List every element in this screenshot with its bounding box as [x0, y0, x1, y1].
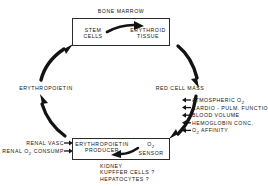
erythroid-tissue-label: ERYTHROIDTISSUE: [128, 27, 168, 40]
organ-caption: KIDNEYKUPFFER CELLS ?HEPATOCYTES ?: [100, 163, 180, 182]
factor-atmospheric-o2: ATMOSPHERIC O2: [192, 97, 266, 105]
sensor-line-2: SENSOR: [138, 150, 163, 156]
producer-line-2: PRODUCER: [85, 147, 119, 153]
renal-o2-label-tail: CONSUMP: [32, 148, 64, 154]
factor-blood-volume: BLOOD VOLUME: [192, 112, 266, 120]
stem-cells-line-2: CELLS: [83, 33, 102, 39]
stem-cells-label: STEMCELLS: [76, 27, 110, 40]
renal-o2-label-head: RENAL O: [2, 148, 28, 154]
erythroid-tissue-line-1: ERYTHROID: [130, 27, 165, 33]
red-cell-mass-node-label: RED CELL MASS: [146, 85, 214, 91]
organ-caption-line-1: KIDNEY: [100, 163, 123, 169]
epo-to-bone-marrow-arrow: [41, 44, 73, 80]
renal-vasc-label: RENAL VASC: [8, 140, 64, 146]
producer-line-1: ERYTHROPOIETIN: [75, 141, 129, 147]
bone-marrow-caption: BONE MARROW: [72, 8, 170, 14]
sensor-subscript: 2: [152, 144, 155, 149]
o2-sensor-label: O2SENSOR: [134, 141, 168, 157]
stem-cells-line-1: STEM: [85, 27, 102, 33]
erythroid-tissue-line-2: TISSUE: [137, 33, 159, 39]
factor-tail: AFFINITY: [199, 127, 228, 133]
bone-marrow-to-red-cell-mass-arrow: [178, 46, 199, 88]
erythropoietin-producer-label: ERYTHROPOIETINPRODUCER: [74, 141, 130, 154]
factor-label: BLOOD VOLUME: [192, 112, 240, 118]
factor-cardio-pulm-function: CARDIO - PULM. FUNCTION: [192, 105, 266, 113]
factor-label: CARDIO - PULM. FUNCTION: [192, 105, 268, 111]
factor-hemoglobin-conc: HEMOGLOBIN CONC.: [192, 120, 266, 128]
oxygen-delivery-factors-list: ATMOSPHERIC O2 CARDIO - PULM. FUNCTION B…: [192, 97, 266, 135]
renal-o2-consump-label: RENAL O2 CONSUMP: [2, 148, 64, 157]
factor-label: ATMOSPHERIC O: [192, 97, 242, 103]
factor-o2-affinity: O2 AFFINITY: [192, 127, 266, 135]
erythropoiesis-feedback-diagram: BONE MARROW STEMCELLS ERYTHROIDTISSUE ER…: [0, 0, 268, 186]
epo-producer-to-epo-arrow: [40, 94, 65, 136]
oxygen-factor-arrows: [182, 98, 191, 133]
organ-caption-line-3: HEPATOCYTES ?: [100, 176, 149, 182]
organ-caption-line-2: KUPFFER CELLS ?: [100, 169, 155, 175]
factor-label: HEMOGLOBIN CONC.: [192, 120, 253, 126]
erythropoietin-node-label: ERYTHROPOIETIN: [10, 85, 82, 91]
